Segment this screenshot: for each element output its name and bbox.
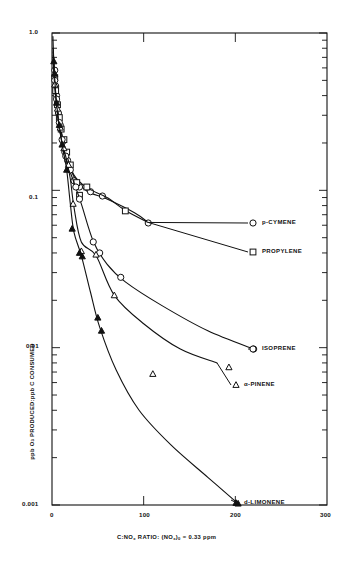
y-title-post: PRODUCED:ppb C CONSUMED bbox=[29, 343, 35, 439]
y-title-pre: ppb O bbox=[29, 442, 35, 460]
legend-label-propylene: PROPYLENE bbox=[262, 248, 302, 254]
x-tick-label-0: 0 bbox=[50, 511, 54, 518]
y-tick-label-1: 1.0 bbox=[29, 28, 38, 35]
x-tick-label-300: 300 bbox=[320, 511, 331, 518]
x-title-tail: = 0.33 ppm bbox=[181, 534, 217, 540]
x-tick-label-200: 200 bbox=[230, 511, 241, 518]
x-title-mid: RATIO: (NO bbox=[136, 534, 173, 540]
chart-canvas bbox=[0, 0, 353, 566]
series-isoprene bbox=[52, 55, 257, 352]
figure-root: 1.0 0.1 0.01 0.001 0 100 200 300 C:NOx R… bbox=[0, 0, 353, 566]
legend-label-alpha-pinene: α-PINENE bbox=[244, 381, 275, 387]
x-axis-ticks bbox=[144, 33, 236, 505]
y-axis-ticks bbox=[52, 33, 327, 505]
x-title-pre: C:NO bbox=[117, 534, 133, 540]
y-axis-title-wrap: ppb O3 PRODUCED:ppb C CONSUMED bbox=[18, 150, 32, 350]
legend-label-p-cymene: p-CYMENE bbox=[262, 219, 296, 225]
y-tick-label-0p001: 0.001 bbox=[22, 500, 38, 507]
legend-label-isoprene: ISOPRENE bbox=[262, 345, 296, 351]
series-d-limonene bbox=[51, 37, 241, 507]
x-axis-title: C:NOx RATIO: (NOx)0 = 0.33 ppm bbox=[117, 534, 216, 541]
legend-label-d-limonene: d-LIMONENE bbox=[244, 499, 285, 505]
legend-markers bbox=[233, 220, 256, 506]
axis-frame bbox=[52, 33, 327, 505]
series-layer bbox=[51, 37, 257, 507]
legend-leader-lines bbox=[148, 222, 253, 503]
y-axis-title: ppb O3 PRODUCED:ppb C CONSUMED bbox=[29, 321, 36, 481]
y-title-sub1: 3 bbox=[30, 439, 35, 442]
x-tick-label-100: 100 bbox=[139, 511, 150, 518]
